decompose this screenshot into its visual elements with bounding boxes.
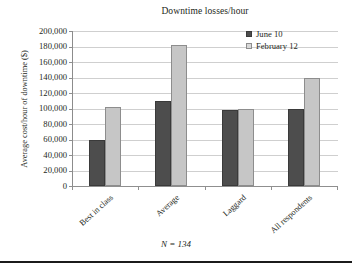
x-tick-mark bbox=[72, 186, 73, 190]
x-tick-label-average: Average bbox=[132, 193, 182, 239]
legend-entry-february-12: February 12 bbox=[246, 40, 298, 52]
legend-label: June 10 bbox=[256, 28, 283, 40]
x-tick-label-all-respondents: All respondents bbox=[265, 193, 315, 239]
x-tick-label-laggard: Laggard bbox=[199, 193, 249, 239]
y-tick-label: 80,000 bbox=[22, 120, 67, 129]
y-tick-label: 120,000 bbox=[22, 89, 67, 98]
dark-square-icon bbox=[246, 31, 252, 37]
bar-best-in-class-june-10 bbox=[89, 140, 105, 187]
x-tick-mark bbox=[271, 186, 272, 190]
bar-average-february-12 bbox=[171, 45, 187, 186]
y-tick-label: 20,000 bbox=[22, 166, 67, 175]
y-tick-label: 200,000 bbox=[22, 27, 67, 36]
y-tick-label: 40,000 bbox=[22, 151, 67, 160]
bar-all-respondents-february-12 bbox=[304, 78, 320, 186]
y-tick-label: 60,000 bbox=[22, 135, 67, 144]
y-tick-label: 100,000 bbox=[22, 104, 67, 113]
gridline bbox=[73, 186, 338, 187]
chart-footnote: N = 134 bbox=[0, 239, 352, 249]
legend-entry-june-10: June 10 bbox=[246, 28, 298, 40]
bar-series-layer bbox=[72, 31, 337, 186]
bottom-divider bbox=[0, 261, 352, 263]
chart-title: Downtime losses/hour bbox=[72, 6, 338, 17]
y-tick-label: 140,000 bbox=[22, 73, 67, 82]
y-tick-label: 0 bbox=[22, 182, 67, 191]
legend-label: February 12 bbox=[256, 40, 298, 52]
y-tick-label: 160,000 bbox=[22, 58, 67, 67]
bar-laggard-february-12 bbox=[238, 109, 254, 187]
y-tick-label: 180,000 bbox=[22, 42, 67, 51]
chart-legend: June 10February 12 bbox=[246, 28, 298, 52]
x-tick-mark bbox=[138, 186, 139, 190]
x-tick-label-best-in-class: Best in class bbox=[66, 193, 116, 239]
x-tick-mark bbox=[205, 186, 206, 190]
light-square-icon bbox=[246, 43, 252, 49]
bar-laggard-june-10 bbox=[222, 110, 238, 186]
bar-all-respondents-june-10 bbox=[288, 109, 304, 186]
chart-figure: Downtime losses/hour Average cost/hour o… bbox=[0, 0, 352, 273]
x-tick-mark bbox=[337, 186, 338, 190]
bar-best-in-class-february-12 bbox=[105, 107, 121, 186]
bar-average-june-10 bbox=[155, 101, 171, 186]
